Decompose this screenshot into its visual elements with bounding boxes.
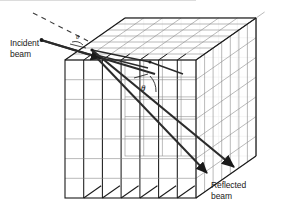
theta-entry-angle-label: θ bbox=[76, 33, 79, 40]
lattice-planes bbox=[84, 60, 195, 198]
incident-beam-dashed-extension bbox=[33, 13, 88, 41]
theta-angle-label: θ bbox=[141, 83, 145, 93]
bragg-diffraction-figure: Incident beam Reflected beam θ θ bbox=[0, 0, 281, 223]
reflected-beam-label: Reflected beam bbox=[211, 180, 246, 201]
lattice-front-face-grid bbox=[65, 80, 196, 179]
incident-angle-arc bbox=[70, 42, 86, 48]
incident-beam-label: Incident beam bbox=[10, 38, 39, 59]
